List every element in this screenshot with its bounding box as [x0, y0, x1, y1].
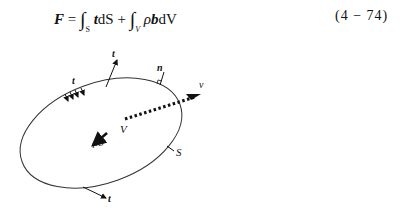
normal-label: n [157, 62, 163, 73]
traction-vector-bottom [83, 187, 106, 198]
surface-leader [167, 146, 174, 151]
traction-label-bottom: t [108, 193, 112, 204]
normal-vector [160, 72, 164, 85]
traction-label-left: t [72, 75, 76, 86]
traction-label-top: t [112, 48, 116, 59]
velocity-label: v [199, 79, 204, 90]
volume-label: V [120, 123, 128, 135]
traction-vector-top [106, 60, 117, 87]
continuum-body-diagram: t t n v V ρb S t [0, 0, 403, 210]
body-boundary [5, 57, 197, 208]
surface-label: S [176, 146, 182, 158]
velocity-vector [125, 97, 195, 119]
body-force-label: ρb [92, 136, 104, 148]
